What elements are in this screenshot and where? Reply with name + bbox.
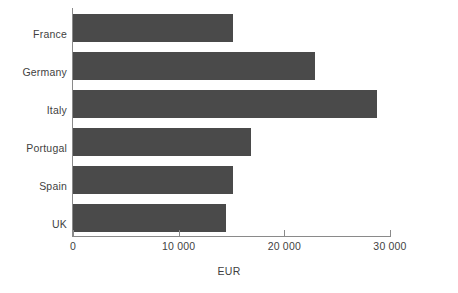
tick-label: 30 000 <box>373 240 406 252</box>
bar <box>73 14 233 42</box>
category-label: Germany <box>22 66 67 78</box>
tick-label: 0 <box>70 240 76 252</box>
tick-mark <box>390 230 391 237</box>
bar <box>73 90 377 118</box>
bar <box>73 128 251 156</box>
bar <box>73 52 315 80</box>
category-label: Portugal <box>26 142 67 154</box>
category-label: UK <box>52 218 67 230</box>
bar-row <box>73 128 390 156</box>
x-axis-title: EUR <box>0 265 458 277</box>
bar-row <box>73 52 390 80</box>
tick-label: 10 000 <box>162 240 195 252</box>
x-axis-line <box>72 236 391 237</box>
bar-chart: FranceGermanyItalyPortugalSpainUK 010 00… <box>0 0 458 293</box>
category-label: France <box>33 28 67 40</box>
category-label: Italy <box>47 104 67 116</box>
bar-row <box>73 166 390 194</box>
bar <box>73 204 226 232</box>
category-label: Spain <box>39 180 67 192</box>
tick-mark <box>73 230 74 237</box>
bar-row <box>73 90 390 118</box>
bar-row <box>73 204 390 232</box>
bar <box>73 166 233 194</box>
tick-label: 20 000 <box>268 240 301 252</box>
y-axis-line <box>72 8 73 236</box>
tick-mark <box>284 230 285 237</box>
tick-mark <box>179 230 180 237</box>
bar-row <box>73 14 390 42</box>
